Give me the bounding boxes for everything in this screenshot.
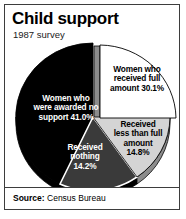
pie-chart-graphic <box>5 29 180 187</box>
source-divider <box>5 187 180 188</box>
source-credit: Source: Census Bureau <box>13 193 106 204</box>
slice-full-amount <box>100 45 176 118</box>
pie-chart: Women who were awarded no support 41.0% … <box>5 29 180 187</box>
infographic-figure: Child support 1987 survey Women who were… <box>4 4 180 210</box>
page-title: Child support <box>12 9 119 28</box>
source-label: Source: <box>13 193 45 203</box>
source-value: Census Bureau <box>47 193 106 203</box>
exploded-slice-side-edge <box>94 46 100 118</box>
